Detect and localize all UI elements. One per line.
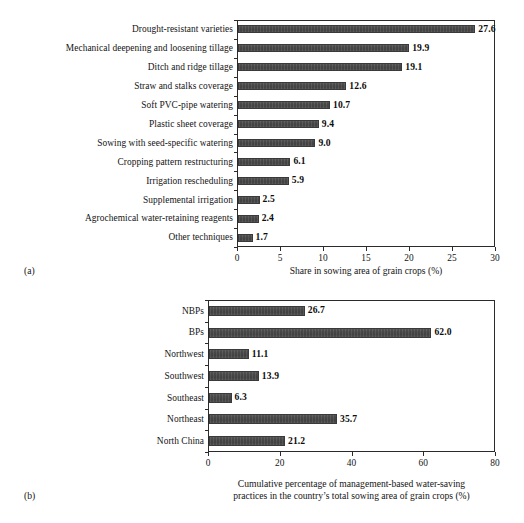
bar-value-label: 12.6 [349, 81, 366, 91]
bar-value-label: 9.0 [318, 138, 330, 148]
y-axis-tick [234, 190, 237, 191]
bar-value-label: 1.7 [256, 232, 268, 242]
bar [238, 215, 259, 223]
plot-area-a [237, 20, 495, 247]
category-label: Cropping pattern restructuring [117, 157, 233, 167]
bar-value-label: 13.9 [262, 371, 279, 381]
panel-letter-a: (a) [24, 265, 35, 276]
y-axis-tick [205, 430, 208, 431]
y-axis-tick [205, 365, 208, 366]
category-label: Drought-resistant varieties [132, 24, 233, 34]
bar [209, 349, 249, 359]
bar [238, 158, 290, 166]
y-axis-tick [234, 209, 237, 210]
category-label: Supplemental irrigation [143, 195, 233, 205]
y-axis-tick [234, 228, 237, 229]
x-axis-tick [280, 452, 281, 456]
bar-value-label: 11.1 [252, 349, 269, 359]
x-axis-tick-label: 80 [490, 458, 499, 468]
y-axis-tick [234, 115, 237, 116]
bar-value-label: 9.4 [322, 119, 334, 129]
x-axis-tick-label: 30 [490, 253, 499, 263]
y-axis-tick [234, 134, 237, 135]
x-axis-tick-label: 10 [318, 253, 327, 263]
x-axis-tick-label: 15 [361, 253, 370, 263]
x-axis-tick [366, 247, 367, 251]
bar-value-label: 6.1 [293, 156, 305, 166]
y-axis-tick [234, 171, 237, 172]
y-axis-tick [234, 152, 237, 153]
bar-value-label: 5.9 [292, 175, 304, 185]
category-label: Ditch and ridge tillage [148, 62, 233, 72]
x-axis-tick-label: 60 [419, 458, 428, 468]
x-axis-tick [423, 452, 424, 456]
bar [238, 234, 253, 242]
x-axis-caption-b-line2: practices in the country’s total sowing … [233, 490, 470, 501]
bar [238, 177, 289, 185]
x-axis-tick-label: 5 [278, 253, 283, 263]
bar [238, 82, 346, 90]
category-label: BPs [189, 327, 204, 337]
y-axis-tick [205, 300, 208, 301]
x-axis-tick-label: 40 [347, 458, 356, 468]
category-label: Straw and stalks coverage [134, 81, 233, 91]
category-label: Southeast [167, 393, 204, 403]
bar [209, 328, 431, 338]
y-axis-tick [234, 77, 237, 78]
y-axis-tick [205, 387, 208, 388]
y-axis-tick [205, 409, 208, 410]
category-label: Northwest [164, 349, 204, 359]
category-label: North China [157, 436, 204, 446]
bar [209, 393, 232, 403]
x-axis-tick-label: 25 [447, 253, 456, 263]
x-axis-tick-label: 20 [404, 253, 413, 263]
category-label: Sowing with seed-specific watering [97, 138, 233, 148]
category-label: Southwest [164, 371, 204, 381]
bar [238, 25, 475, 33]
x-axis-tick-label: 0 [235, 253, 240, 263]
bar [209, 371, 259, 381]
bar-value-label: 27.6 [478, 24, 495, 34]
bar-value-label: 2.5 [263, 194, 275, 204]
panel-letter-b: (b) [24, 490, 35, 501]
x-axis-caption-b: Cumulative percentage of management-base… [182, 478, 522, 502]
y-axis-tick [234, 96, 237, 97]
bar [238, 120, 319, 128]
category-label: Agrochemical water-retaining reagents [85, 213, 233, 223]
x-axis-tick [452, 247, 453, 251]
category-label: Soft PVC-pipe watering [141, 100, 233, 110]
category-label: Plastic sheet coverage [149, 119, 233, 129]
bar-value-label: 62.0 [434, 327, 451, 337]
bar-value-label: 35.7 [340, 414, 357, 424]
y-axis-tick [234, 39, 237, 40]
x-axis-tick [352, 452, 353, 456]
x-axis-tick [208, 452, 209, 456]
bar [209, 306, 305, 316]
y-axis-tick [205, 322, 208, 323]
x-axis-tick [237, 247, 238, 251]
y-axis-tick [205, 343, 208, 344]
x-axis-tick-label: 0 [206, 458, 211, 468]
x-axis-tick [495, 247, 496, 251]
bar-value-label: 19.9 [412, 43, 429, 53]
bar-value-label: 2.4 [262, 213, 274, 223]
bar-value-label: 10.7 [333, 100, 350, 110]
x-axis-tick [409, 247, 410, 251]
x-axis-caption-a: Share in sowing area of grain crops (%) [237, 265, 495, 277]
bar-value-label: 19.1 [405, 62, 422, 72]
bar [238, 63, 402, 71]
category-label: Irrigation rescheduling [146, 176, 233, 186]
category-label: Mechanical deepening and loosening tilla… [66, 43, 233, 53]
bar [238, 139, 315, 147]
bar-value-label: 6.3 [235, 392, 247, 402]
y-axis-tick [234, 58, 237, 59]
x-axis-tick-label: 20 [275, 458, 284, 468]
category-label: Northeast [167, 414, 204, 424]
x-axis-tick [323, 247, 324, 251]
x-axis-tick [495, 452, 496, 456]
bar-value-label: 26.7 [308, 305, 325, 315]
bar-value-label: 21.2 [288, 436, 305, 446]
category-label: Other techniques [168, 232, 233, 242]
bar [238, 44, 409, 52]
category-label: NBPs [182, 306, 204, 316]
